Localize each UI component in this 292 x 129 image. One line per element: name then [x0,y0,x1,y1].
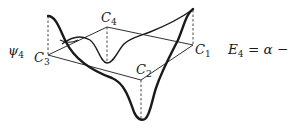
atom-subscript: 2 [146,69,152,79]
energy-label: E4 = α − 2β [228,43,292,59]
atom-symbol: C [136,62,146,77]
lobe-c3-c2-c1 [48,9,193,120]
energy-value: = α − 2β [248,41,292,57]
bond-c2-c3 [48,55,141,80]
atom-subscript: 3 [44,57,50,67]
atom-symbol: C [195,42,205,57]
psi-subscript: 4 [18,50,24,60]
vertical-axes [48,10,193,119]
atom-symbol: C [101,10,111,25]
energy-subscript: 4 [238,49,244,59]
psi-symbol: ψ [8,43,18,58]
atom-label-c1: C1 [195,43,211,59]
orbital-label: ψ4 [8,44,24,60]
atom-label-c4: C4 [101,11,117,27]
atom-label-c2: C2 [136,63,152,79]
lobe-c4-down [62,10,192,63]
energy-symbol: E [228,41,238,57]
atom-symbol: C [34,50,44,65]
atom-subscript: 1 [205,49,211,59]
orbital-diagram: ψ4 C3 C4 C1 C2 E4 = α − 2β [0,0,292,129]
atom-subscript: 4 [111,17,117,27]
atom-label-c3: C3 [34,51,50,67]
